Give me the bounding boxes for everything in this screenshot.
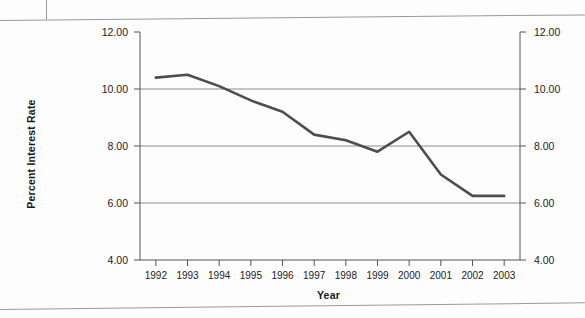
bottom-axis-group	[140, 260, 520, 266]
y-axis-title: Percent Interest Rate	[25, 89, 37, 219]
ytick-labels-left: 4.006.008.0010.0012.00	[102, 26, 128, 266]
ytick-label-right-10.00: 10.00	[534, 83, 560, 95]
xtick-labels: 1992199319941995199619971998199920002001…	[145, 270, 516, 281]
xtick-label-2000: 2000	[398, 270, 421, 281]
xticks-group	[156, 260, 504, 266]
ytick-label-left-12.00: 12.00	[102, 26, 128, 38]
ytick-label-right-6.00: 6.00	[534, 197, 555, 209]
xtick-label-1994: 1994	[208, 270, 231, 281]
left-axis-group	[134, 32, 140, 260]
series-line-percent-interest-rate	[156, 75, 504, 196]
ytick-labels-right: 4.006.008.0010.0012.00	[534, 26, 560, 266]
xtick-label-2003: 2003	[493, 270, 516, 281]
xtick-label-1996: 1996	[271, 270, 294, 281]
xtick-label-1998: 1998	[335, 270, 358, 281]
chart-plot-svg: 4.006.008.0010.0012.00 4.006.008.0010.00…	[0, 0, 585, 318]
ytick-label-left-4.00: 4.00	[108, 254, 129, 266]
ytick-label-right-4.00: 4.00	[534, 254, 555, 266]
xtick-label-2001: 2001	[430, 270, 453, 281]
xtick-label-1995: 1995	[240, 270, 263, 281]
ytick-label-left-6.00: 6.00	[108, 197, 129, 209]
ytick-label-right-12.00: 12.00	[534, 26, 560, 38]
xtick-label-1999: 1999	[366, 270, 389, 281]
right-axis-group	[520, 32, 526, 260]
xtick-label-1992: 1992	[145, 270, 168, 281]
gridlines-group	[140, 89, 520, 203]
ytick-label-left-10.00: 10.00	[102, 83, 128, 95]
ytick-label-left-8.00: 8.00	[108, 140, 129, 152]
chart-figure: 4.006.008.0010.0012.00 4.006.008.0010.00…	[0, 0, 585, 318]
ytick-label-right-8.00: 8.00	[534, 140, 555, 152]
x-axis-title: Year	[36, 289, 585, 301]
xtick-label-1997: 1997	[303, 270, 326, 281]
xtick-label-2002: 2002	[461, 270, 484, 281]
xtick-label-1993: 1993	[176, 270, 199, 281]
